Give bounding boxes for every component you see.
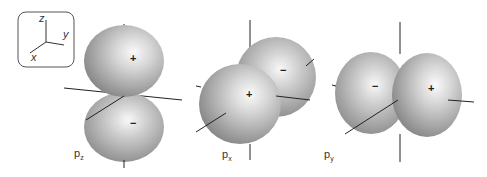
pz-plus-sign: + — [130, 52, 136, 64]
axis-label-y: y — [63, 28, 69, 40]
pz-minus-sign: − — [130, 117, 136, 129]
axis-label-z: z — [39, 12, 45, 24]
axis-label-x: x — [31, 51, 37, 63]
pz-label: pz — [74, 147, 84, 161]
px-minus-sign: − — [280, 64, 286, 76]
px-plus-sign: + — [246, 88, 252, 100]
py-orbital — [332, 22, 474, 162]
px-orbital — [196, 20, 316, 160]
px-label: px — [222, 148, 232, 162]
py-plus-sign: + — [428, 82, 434, 94]
py-minus-sign: − — [372, 80, 378, 92]
py-label: py — [324, 148, 334, 162]
